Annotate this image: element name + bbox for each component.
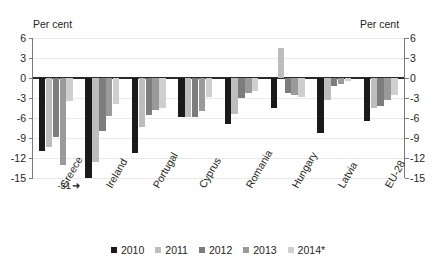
y-tick-left-3 [29, 58, 33, 59]
y-tick-label-right-neg9: -9 [410, 133, 436, 143]
bar-romania-2011 [231, 78, 237, 114]
y-tick-left-neg3 [29, 98, 33, 99]
y-tick-label-right-neg3: -3 [410, 93, 436, 103]
y-tick-left-neg12 [29, 158, 33, 159]
bar-eu-28-2013 [384, 78, 390, 100]
legend-label: 2011 [165, 244, 188, 256]
bar-portugal-2010 [132, 78, 138, 153]
annotation-arrow-icon: ➜ [72, 180, 80, 191]
y-tick-label-right-neg12: -12 [410, 153, 436, 163]
annotation-minus-31: -31➜ [57, 180, 80, 191]
y-tick-right-neg15 [405, 178, 409, 179]
legend-item-2014[interactable]: 2014* [288, 244, 325, 256]
bar-cyprus-2012 [192, 78, 198, 117]
bar-ireland-2011 [92, 78, 98, 162]
bar-hungary-2010 [271, 78, 277, 108]
legend-item-2010[interactable]: 2010 [111, 244, 144, 256]
legend-label: 2014* [298, 244, 325, 256]
legend-item-2012[interactable]: 2012 [199, 244, 232, 256]
chart-root: Per cent Per cent 663300-3-3-6-6-9-9-12-… [0, 0, 436, 267]
legend-swatch-icon-2014 [288, 247, 294, 253]
y-tick-right-0 [405, 78, 409, 79]
bar-portugal-2013 [152, 78, 158, 110]
legend-swatch-icon-2011 [155, 247, 161, 253]
y-tick-label-left-0: 0 [2, 73, 26, 83]
chart-legend: 20102011201220132014* [0, 244, 436, 256]
bar-cyprus-2011 [185, 78, 191, 117]
bar-eu-28-2014 [391, 78, 397, 95]
legend-item-2013[interactable]: 2013 [243, 244, 276, 256]
bar-latvia-2011 [324, 78, 330, 100]
y-tick-right-3 [405, 58, 409, 59]
bar-romania-2013 [245, 78, 251, 93]
legend-swatch-icon-2012 [199, 247, 205, 253]
y-tick-label-left-6: 6 [2, 33, 26, 43]
legend-item-2011[interactable]: 2011 [155, 244, 188, 256]
bar-hungary-2011 [278, 48, 284, 78]
y-tick-label-right-3: 3 [410, 53, 436, 63]
bar-greece-2012 [53, 78, 59, 137]
bar-eu-28-2010 [364, 78, 370, 121]
y-tick-right-neg9 [405, 138, 409, 139]
bar-romania-2012 [238, 78, 244, 98]
y-tick-label-right-6: 6 [410, 33, 436, 43]
bar-portugal-2011 [139, 78, 145, 127]
legend-swatch-icon-2013 [243, 247, 249, 253]
bar-hungary-2012 [285, 78, 291, 93]
y-tick-label-right-neg15: -15 [410, 173, 436, 183]
bar-ireland-2013 [106, 78, 112, 116]
y-tick-label-right-0: 0 [410, 73, 436, 83]
y-tick-label-right-neg6: -6 [410, 113, 436, 123]
right-axis-title: Per cent [360, 18, 399, 30]
y-tick-left-neg9 [29, 138, 33, 139]
y-tick-left-neg6 [29, 118, 33, 119]
y-tick-left-neg15 [29, 178, 33, 179]
bar-romania-2010 [225, 78, 231, 124]
bar-portugal-2014 [159, 78, 165, 108]
legend-label: 2010 [121, 244, 144, 256]
y-tick-label-left-neg15: -15 [2, 173, 26, 183]
bar-latvia-2012 [331, 78, 337, 86]
bar-ireland-2014 [113, 78, 119, 104]
bar-latvia-2010 [317, 78, 323, 133]
bar-ireland-2012 [99, 78, 105, 131]
bar-ireland-2010 [85, 78, 91, 178]
bar-romania-2014 [252, 78, 258, 91]
bar-cyprus-2013 [199, 78, 205, 111]
legend-swatch-icon-2010 [111, 247, 117, 253]
y-tick-right-6 [405, 38, 409, 39]
legend-label: 2013 [253, 244, 276, 256]
bar-greece-2011 [46, 78, 52, 147]
bar-greece-2014 [66, 78, 72, 101]
y-tick-label-left-neg9: -9 [2, 133, 26, 143]
bar-eu-28-2011 [371, 78, 377, 108]
y-tick-label-left-neg6: -6 [2, 113, 26, 123]
y-tick-right-neg3 [405, 98, 409, 99]
bar-greece-2013 [60, 78, 66, 165]
bar-portugal-2012 [146, 78, 152, 115]
plot-area [33, 38, 404, 178]
bar-group-eu-28 [358, 38, 404, 178]
y-tick-left-6 [29, 38, 33, 39]
bar-cyprus-2010 [178, 78, 184, 117]
bar-latvia-2014 [345, 78, 351, 81]
bar-greece-2010 [39, 78, 45, 151]
y-tick-right-neg6 [405, 118, 409, 119]
annotation-value: -31 [57, 180, 71, 191]
bar-hungary-2014 [298, 78, 304, 97]
bar-latvia-2013 [338, 78, 344, 84]
y-tick-label-left-neg3: -3 [2, 93, 26, 103]
left-axis-title: Per cent [33, 18, 72, 30]
y-tick-label-left-3: 3 [2, 53, 26, 63]
y-tick-right-neg12 [405, 158, 409, 159]
y-tick-label-left-neg12: -12 [2, 153, 26, 163]
bar-hungary-2013 [291, 78, 297, 95]
bar-cyprus-2014 [206, 78, 212, 97]
bar-eu-28-2012 [377, 78, 383, 106]
y-tick-left-0 [29, 78, 33, 79]
legend-label: 2012 [209, 244, 232, 256]
